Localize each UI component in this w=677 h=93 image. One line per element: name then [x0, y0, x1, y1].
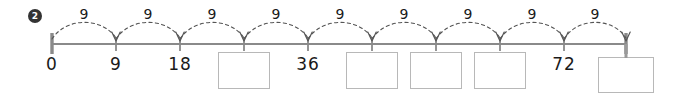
hop-arrowhead [496, 32, 504, 41]
hop-arrowhead [432, 32, 440, 41]
hop-arc [244, 22, 308, 39]
hop-label: 9 [400, 6, 409, 22]
tick-label: 36 [296, 54, 320, 74]
hop-label: 9 [144, 6, 153, 22]
hop-arrowhead [112, 32, 120, 41]
answer-box[interactable] [218, 52, 270, 89]
hop-label: 9 [528, 6, 537, 22]
hop-arc [308, 22, 372, 39]
hop-label: 9 [80, 6, 89, 22]
answer-box[interactable] [598, 57, 654, 93]
hop-label: 9 [464, 6, 473, 22]
tick-label: 9 [110, 54, 122, 74]
tick-label: 18 [168, 54, 192, 74]
hop-arrowhead [176, 32, 184, 41]
hop-arc [372, 22, 436, 39]
hop-arc [436, 22, 500, 39]
numberline-worksheet: 2 99999999909183672 [0, 0, 677, 93]
hop-label: 9 [336, 6, 345, 22]
hop-label: 9 [591, 6, 600, 22]
hop-arrowhead [240, 32, 248, 41]
answer-box[interactable] [410, 52, 462, 89]
hop-label: 9 [208, 6, 217, 22]
hop-arrowhead [304, 32, 312, 41]
tick-label: 72 [552, 54, 576, 74]
answer-box[interactable] [346, 52, 398, 89]
hop-arc [116, 22, 180, 39]
answer-box[interactable] [474, 52, 526, 89]
hop-arrowhead [560, 32, 568, 41]
hop-arc [52, 22, 116, 39]
hop-arc [500, 22, 564, 39]
answer-box-stem [625, 44, 628, 58]
hop-arc [564, 22, 626, 39]
tick-label: 0 [46, 54, 58, 74]
hop-arrowhead [368, 32, 376, 41]
hop-label: 9 [272, 6, 281, 22]
hop-arc [180, 22, 244, 39]
